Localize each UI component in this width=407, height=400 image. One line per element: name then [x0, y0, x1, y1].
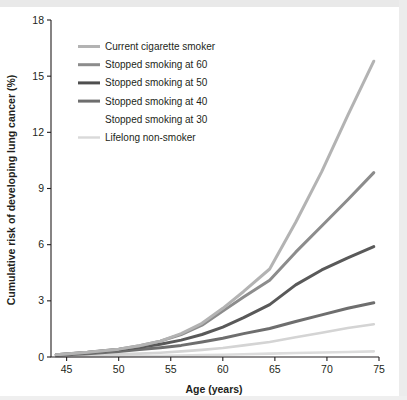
x-tick-label: 45	[61, 363, 73, 375]
chart-figure: 036912151845505560657075 Current cigaret…	[0, 0, 407, 400]
axis-layer	[47, 20, 379, 361]
x-tick-label: 60	[217, 363, 229, 375]
legend-label: Current cigarette smoker	[105, 41, 216, 52]
legend-label: Stopped smoking at 30	[105, 114, 208, 125]
y-tick-label: 6	[38, 238, 44, 250]
y-tick-label: 18	[32, 14, 44, 26]
y-tick-label: 0	[38, 351, 44, 363]
series-line	[56, 61, 374, 355]
x-tick-label: 55	[165, 363, 177, 375]
legend-label: Stopped smoking at 50	[105, 77, 208, 88]
y-tick-label: 3	[38, 294, 44, 306]
legend-label: Stopped smoking at 60	[105, 59, 208, 70]
legend-layer: Current cigarette smokerStopped smoking …	[78, 41, 216, 143]
legend-label: Lifelong non-smoker	[105, 132, 196, 143]
x-tick-label: 50	[113, 363, 125, 375]
series-line	[56, 173, 374, 355]
line-chart-svg: 036912151845505560657075 Current cigaret…	[0, 0, 407, 400]
x-axis-title: Age (years)	[185, 383, 242, 395]
y-tick-label: 15	[32, 70, 44, 82]
y-tick-label: 9	[38, 182, 44, 194]
series-layer	[56, 61, 374, 356]
y-tick-label: 12	[32, 126, 44, 138]
legend-label: Stopped smoking at 40	[105, 96, 208, 107]
y-axis-title: Cumulative risk of developing lung cance…	[5, 75, 17, 305]
x-tick-label: 75	[373, 363, 385, 375]
x-tick-label: 70	[321, 363, 333, 375]
x-tick-label: 65	[269, 363, 281, 375]
